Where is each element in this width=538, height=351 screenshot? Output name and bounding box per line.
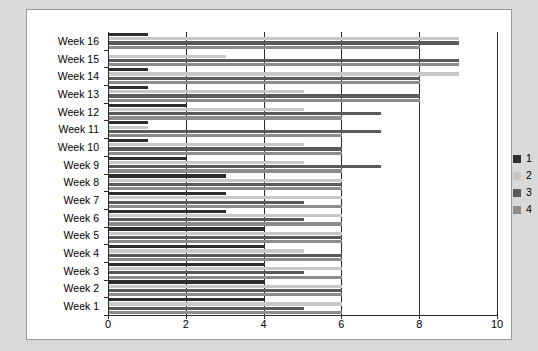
y-tick-15	[104, 315, 108, 316]
bar-week-2-series-3	[109, 289, 342, 292]
y-tick-2	[104, 85, 108, 86]
bar-week-6-series-1	[109, 210, 226, 213]
bar-week-4-series-2	[109, 249, 304, 252]
screenshot-root: Week 16Week 15Week 14Week 13Week 12Week …	[0, 0, 538, 351]
bar-week-3-series-1	[109, 263, 265, 266]
bar-week-15-series-2	[109, 55, 226, 58]
legend-item-1[interactable]: 1	[513, 150, 538, 167]
legend-label-1: 1	[526, 153, 532, 164]
y-tick-1	[104, 67, 108, 68]
bar-week-7-series-1	[109, 192, 226, 195]
bar-week-7-series-3	[109, 201, 304, 204]
y-tick-3	[104, 103, 108, 104]
legend-label-3: 3	[526, 187, 532, 198]
bar-week-10-series-4	[109, 152, 342, 155]
x-tick-label-4: 4	[261, 318, 267, 330]
bar-week-1-series-2	[109, 302, 342, 305]
bar-week-2-series-4	[109, 293, 342, 296]
bar-week-13-series-4	[109, 99, 420, 102]
bar-week-7-series-4	[109, 205, 342, 208]
bar-week-12-series-4	[109, 116, 342, 119]
bar-week-16-series-1	[109, 33, 148, 36]
bar-week-10-series-2	[109, 143, 304, 146]
bar-week-12-series-1	[109, 104, 187, 107]
x-tick-label-10: 10	[491, 318, 503, 330]
y-tick-4	[104, 120, 108, 121]
bar-week-10-series-1	[109, 139, 148, 142]
y-axis-category-labels: Week 16Week 15Week 14Week 13Week 12Week …	[27, 32, 105, 315]
y-tick-7	[104, 174, 108, 175]
bar-week-5-series-2	[109, 232, 342, 235]
y-axis-label-week-8: Week 8	[64, 176, 99, 188]
bar-week-2-series-2	[109, 285, 342, 288]
bar-week-16-series-3	[109, 41, 459, 44]
legend-item-2[interactable]: 2	[513, 167, 538, 184]
bar-week-5-series-4	[109, 240, 342, 243]
bar-week-6-series-4	[109, 222, 342, 225]
bar-week-13-series-1	[109, 86, 148, 89]
y-axis-label-week-13: Week 13	[58, 88, 99, 100]
legend-swatch-3	[513, 189, 521, 197]
y-tick-12	[104, 262, 108, 263]
y-axis-label-week-12: Week 12	[58, 106, 99, 118]
bar-week-3-series-3	[109, 271, 304, 274]
bar-week-12-series-3	[109, 112, 381, 115]
bar-week-6-series-2	[109, 214, 342, 217]
bar-week-11-series-4	[109, 134, 342, 137]
bar-week-10-series-3	[109, 147, 342, 150]
bar-week-13-series-2	[109, 90, 304, 93]
y-axis-label-week-4: Week 4	[64, 247, 99, 259]
legend-swatch-1	[513, 155, 521, 163]
y-axis-label-week-1: Week 1	[64, 300, 99, 312]
y-axis-label-week-10: Week 10	[58, 141, 99, 153]
y-tick-10	[104, 227, 108, 228]
bar-week-8-series-1	[109, 174, 226, 177]
legend-label-2: 2	[526, 170, 532, 181]
bar-week-9-series-3	[109, 165, 381, 168]
bar-week-3-series-4	[109, 276, 342, 279]
bar-week-11-series-1	[109, 121, 148, 124]
x-tick-label-0: 0	[105, 318, 111, 330]
bar-week-5-series-1	[109, 227, 265, 230]
bar-week-8-series-2	[109, 179, 342, 182]
y-axis-label-week-3: Week 3	[64, 265, 99, 277]
legend-label-4: 4	[526, 204, 532, 215]
bar-week-8-series-4	[109, 187, 342, 190]
gridline-x-10	[497, 32, 498, 315]
bar-week-9-series-4	[109, 169, 342, 172]
y-axis-label-week-7: Week 7	[64, 194, 99, 206]
y-axis-label-week-2: Week 2	[64, 282, 99, 294]
y-tick-8	[104, 191, 108, 192]
y-tick-13	[104, 280, 108, 281]
bar-week-14-series-2	[109, 72, 459, 75]
bar-week-1-series-1	[109, 298, 265, 301]
bar-week-5-series-3	[109, 236, 342, 239]
bar-week-4-series-1	[109, 245, 265, 248]
legend-swatch-4	[513, 206, 521, 214]
bar-week-1-series-3	[109, 307, 304, 310]
legend-item-4[interactable]: 4	[513, 201, 538, 218]
y-axis-label-week-14: Week 14	[58, 70, 99, 82]
bar-week-4-series-4	[109, 258, 342, 261]
x-tick-label-2: 2	[183, 318, 189, 330]
x-tick-label-8: 8	[416, 318, 422, 330]
bar-week-3-series-2	[109, 267, 342, 270]
bar-week-16-series-2	[109, 37, 459, 40]
y-tick-0	[104, 50, 108, 51]
legend-item-3[interactable]: 3	[513, 184, 538, 201]
bar-week-9-series-2	[109, 161, 304, 164]
bar-week-11-series-3	[109, 130, 381, 133]
bar-week-14-series-1	[109, 68, 148, 71]
bar-week-1-series-4	[109, 311, 342, 314]
x-axis-tick-labels: 0246810	[108, 318, 498, 334]
y-axis-label-week-15: Week 15	[58, 53, 99, 65]
x-axis-line	[108, 315, 498, 316]
bar-week-4-series-3	[109, 254, 342, 257]
bar-week-11-series-2	[109, 126, 148, 129]
y-tick-11	[104, 244, 108, 245]
chart-frame: Week 16Week 15Week 14Week 13Week 12Week …	[26, 9, 512, 340]
y-tick-6	[104, 156, 108, 157]
bar-week-7-series-2	[109, 196, 342, 199]
bar-week-15-series-4	[109, 63, 459, 66]
bar-week-8-series-3	[109, 183, 342, 186]
